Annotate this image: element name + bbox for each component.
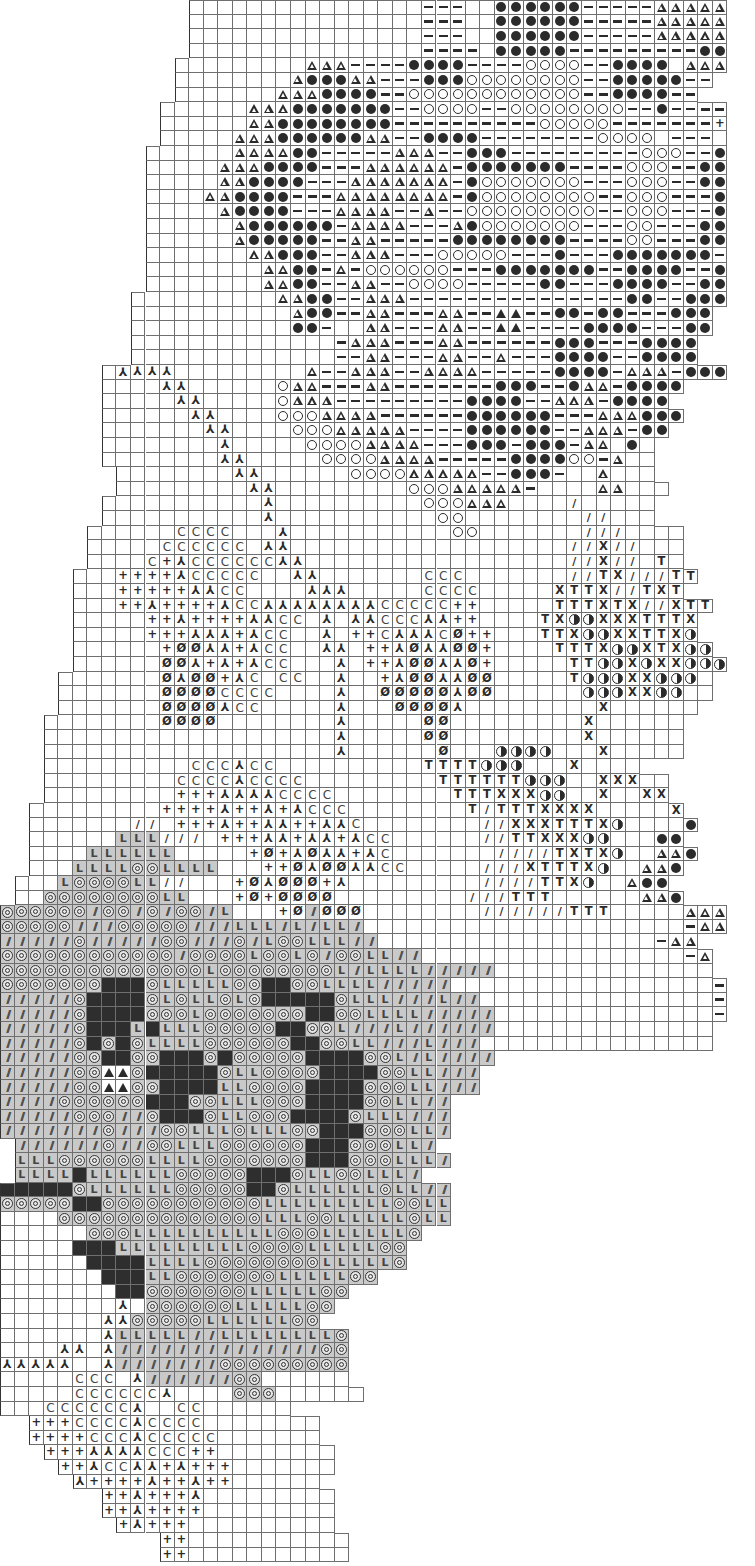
- empty-cell: [160, 292, 175, 307]
- plus-symbol: +: [204, 1445, 219, 1460]
- empty-cell: [306, 1504, 321, 1519]
- dash-symbol: [437, 219, 452, 234]
- slashed-zero-symbol: Ø: [276, 876, 291, 891]
- double-slash-symbol: //: [407, 978, 422, 993]
- y-stitch-symbol: ⅄: [320, 818, 335, 833]
- empty-cell: [276, 511, 291, 526]
- empty-cell: [524, 569, 539, 584]
- empty-cell: [247, 292, 262, 307]
- empty-cell: [407, 526, 422, 541]
- double-slash-symbol: //: [0, 1051, 15, 1066]
- bullseye-symbol: [204, 1197, 219, 1212]
- dash-symbol: [335, 234, 350, 249]
- solid-block: [262, 1168, 277, 1183]
- empty-cell: [291, 1387, 306, 1402]
- dash-symbol: [378, 409, 393, 424]
- open-triangle-symbol: [247, 117, 262, 132]
- filled-circle-symbol: [509, 44, 524, 59]
- open-triangle-symbol: [684, 905, 699, 920]
- empty-cell: [73, 745, 88, 760]
- double-slash-symbol: //: [480, 1007, 495, 1022]
- filled-circle-symbol: [495, 29, 510, 44]
- dash-symbol: [466, 58, 481, 73]
- empty-cell: [102, 657, 117, 672]
- bullseye-symbol: [393, 1197, 408, 1212]
- bullseye-symbol: [204, 1110, 219, 1125]
- empty-cell: [131, 453, 146, 468]
- bullseye-symbol: [247, 1197, 262, 1212]
- dash-symbol: [553, 423, 568, 438]
- empty-cell: [204, 1416, 219, 1431]
- open-triangle-symbol: [451, 350, 466, 365]
- solid-block: [306, 1007, 321, 1022]
- slashed-zero-symbol: Ø: [160, 686, 175, 701]
- open-triangle-symbol: [364, 277, 379, 292]
- empty-cell: [58, 1329, 73, 1344]
- slash-symbol: /: [567, 569, 582, 584]
- open-circle-symbol: [567, 117, 582, 132]
- filled-circle-symbol: [335, 117, 350, 132]
- dash-symbol: [306, 175, 321, 190]
- open-circle-symbol: [626, 219, 641, 234]
- c-symbol: C: [262, 759, 277, 774]
- t-symbol: T: [582, 584, 597, 599]
- empty-cell: [451, 905, 466, 920]
- empty-cell: [29, 847, 44, 862]
- solid-block: [87, 1037, 102, 1052]
- empty-cell: [611, 1037, 626, 1052]
- open-circle-symbol: [422, 88, 437, 103]
- empty-cell: [146, 292, 161, 307]
- y-stitch-symbol: ⅄: [102, 1445, 117, 1460]
- half-circle-symbol: [597, 832, 612, 847]
- half-circle-symbol: [582, 876, 597, 891]
- c-symbol: C: [233, 584, 248, 599]
- l-symbol: L: [146, 847, 161, 862]
- empty-cell: [306, 15, 321, 30]
- slash-symbol: /: [524, 905, 539, 920]
- empty-cell: [175, 175, 190, 190]
- open-triangle-symbol: [393, 292, 408, 307]
- filled-circle-symbol: [466, 423, 481, 438]
- dash-symbol: [582, 307, 597, 322]
- open-triangle-symbol: [364, 175, 379, 190]
- bullseye-symbol: [131, 1080, 146, 1095]
- empty-cell: [204, 248, 219, 263]
- t-symbol: T: [582, 818, 597, 833]
- l-symbol: L: [116, 861, 131, 876]
- bullseye-symbol: [306, 1022, 321, 1037]
- empty-cell: [291, 1460, 306, 1475]
- filled-circle-symbol: [247, 204, 262, 219]
- empty-cell: [466, 701, 481, 716]
- c-symbol: C: [393, 861, 408, 876]
- empty-cell: [698, 672, 713, 687]
- open-triangle-symbol: [466, 496, 481, 511]
- l-symbol: L: [218, 1124, 233, 1139]
- solid-block: [320, 1139, 335, 1154]
- empty-cell: [73, 599, 88, 614]
- l-symbol: L: [364, 1256, 379, 1271]
- bullseye-symbol: [247, 978, 262, 993]
- open-circle-symbol: [538, 190, 553, 205]
- dash-symbol: [393, 73, 408, 88]
- empty-cell: [524, 949, 539, 964]
- open-circle-symbol: [597, 102, 612, 117]
- dash-symbol: [407, 336, 422, 351]
- empty-cell: [276, 58, 291, 73]
- double-slash-symbol: //: [204, 1329, 219, 1344]
- empty-cell: [160, 350, 175, 365]
- empty-cell: [291, 365, 306, 380]
- bullseye-symbol: [320, 1285, 335, 1300]
- empty-cell: [553, 511, 568, 526]
- dash-symbol: [393, 131, 408, 146]
- open-triangle-symbol: [218, 190, 233, 205]
- empty-cell: [407, 774, 422, 789]
- y-stitch-symbol: ⅄: [218, 701, 233, 716]
- l-symbol: L: [146, 1256, 161, 1271]
- dash-symbol: [320, 175, 335, 190]
- slash-symbol: /: [480, 891, 495, 906]
- bullseye-symbol: [233, 1270, 248, 1285]
- filled-circle-symbol: [509, 234, 524, 249]
- filled-circle-symbol: [509, 0, 524, 15]
- filled-circle-symbol: [320, 131, 335, 146]
- half-circle-symbol: [509, 759, 524, 774]
